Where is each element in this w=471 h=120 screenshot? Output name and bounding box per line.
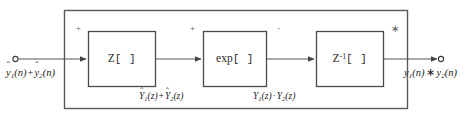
block-symbol-z: Z bbox=[108, 52, 115, 64]
output-terminal-icon bbox=[438, 56, 443, 61]
block-label-z-transform: Z[ ] bbox=[88, 52, 156, 65]
input-arg-2: (n) bbox=[43, 67, 55, 78]
block-label-exponential: exp[ ] bbox=[203, 52, 267, 65]
mid1-var-2-letter: Y bbox=[165, 91, 170, 101]
mid1-operator: + bbox=[158, 91, 165, 101]
asterisk-convolution-sign-after-block3: ∗ bbox=[391, 24, 399, 34]
intermediate-label-after-z-transform: Ŷ1(z)+Ŷ2(z) bbox=[139, 92, 183, 102]
input-terminal-icon bbox=[13, 56, 18, 61]
mid1-var-2: Ŷ bbox=[165, 92, 170, 102]
input-var-1: ŷ bbox=[6, 68, 11, 79]
block-brackets-2: [ ] bbox=[233, 53, 254, 65]
mid1-var-1: Ŷ bbox=[139, 92, 144, 102]
input-signal-label: ŷ1(n)+ŷ2(n) bbox=[6, 68, 55, 80]
plus-sign-before-block1: + bbox=[76, 24, 81, 33]
block-diagram: + + · ∗ Z[ ] exp[ ] Z-1[ ] ŷ1(n)+ŷ2(n)… bbox=[0, 0, 471, 120]
mid1-arg-2: (z) bbox=[173, 91, 183, 101]
output-signal-label: y1(n)∗y2(n) bbox=[404, 68, 457, 80]
output-arg-2: (n) bbox=[445, 67, 457, 78]
input-var-2-letter: y bbox=[34, 67, 39, 78]
mid2-arg-1: (z) bbox=[262, 91, 272, 101]
input-var-1-letter: y bbox=[6, 67, 11, 78]
mid1-var-1-letter: Y bbox=[139, 91, 144, 101]
output-operator: ∗ bbox=[424, 67, 436, 78]
block-brackets-3: [ ] bbox=[346, 53, 367, 65]
dot-operator-before-block3: · bbox=[277, 23, 281, 34]
input-var-2: ŷ bbox=[34, 68, 39, 79]
input-arg-1: (n) bbox=[14, 67, 26, 78]
output-arg-1: (n) bbox=[412, 67, 424, 78]
mid1-arg-1: (z) bbox=[148, 91, 158, 101]
plus-sign-before-block2: + bbox=[190, 24, 195, 33]
block-brackets-1: [ ] bbox=[115, 53, 136, 65]
block-label-inverse-z-transform: Z-1[ ] bbox=[316, 52, 384, 65]
block-symbol-z-inverse: Z bbox=[333, 52, 340, 64]
mid2-arg-2: (z) bbox=[285, 91, 295, 101]
intermediate-label-after-exponential: Y1(z)·Y2(z) bbox=[253, 92, 295, 102]
block-symbol-exp: exp bbox=[216, 52, 233, 64]
